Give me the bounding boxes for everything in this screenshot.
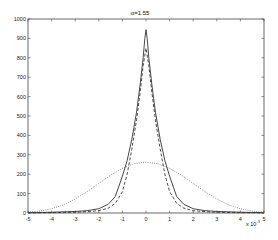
line-chart: α=1.55 01002003004005006007008009001000 … [0, 0, 278, 240]
series-group [28, 30, 264, 213]
y-tick-label: 1000 [14, 16, 26, 22]
x-tick-label: 4 [239, 216, 242, 222]
y-tick-label: 500 [17, 113, 26, 119]
y-axis: 01002003004005006007008009001000 [14, 16, 264, 216]
x-tick-label: -2 [96, 216, 101, 222]
x-tick-label: 5 [262, 216, 265, 222]
x-tick-label: -3 [73, 216, 78, 222]
y-tick-label: 800 [17, 55, 26, 61]
x-tick-label: 1 [168, 216, 171, 222]
x-tick-label: 0 [144, 216, 147, 222]
series-line-dashed [28, 48, 264, 213]
plot-frame [28, 19, 264, 213]
y-tick-label: 300 [17, 152, 26, 158]
x-tick-label: -1 [120, 216, 125, 222]
y-tick-label: 400 [17, 132, 26, 138]
y-tick-label: 700 [17, 74, 26, 80]
y-tick-label: 200 [17, 171, 26, 177]
y-tick-label: 600 [17, 94, 26, 100]
x-tick-label: -5 [26, 216, 31, 222]
x-tick-label: 3 [215, 216, 218, 222]
x-tick-label: -4 [49, 216, 54, 222]
x-tick-label: 2 [192, 216, 195, 222]
series-line-dotted [28, 162, 264, 212]
series-line-solid [28, 30, 264, 213]
chart-title: α=1.55 [131, 10, 150, 16]
x-multiplier-label: x 10-3 [246, 219, 261, 227]
y-tick-label: 100 [17, 191, 26, 197]
y-tick-label: 900 [17, 35, 26, 41]
